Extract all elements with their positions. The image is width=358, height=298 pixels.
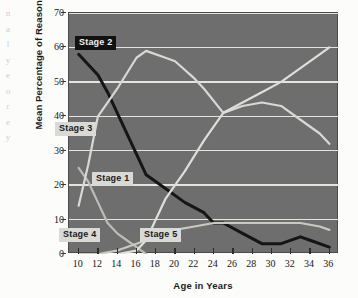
series-callout-stage-3: Stage 3 (55, 122, 96, 136)
figure-page: n a l y e o r e y Mean Percentage of Rea… (0, 0, 358, 298)
x-axis-ticks: 1012141618202224262830323436 (0, 0, 358, 298)
series-callout-stage-5: Stage 5 (140, 228, 181, 242)
series-callout-stage-1: Stage 1 (92, 172, 133, 186)
x-axis-title: Age in Years (68, 280, 338, 291)
series-callout-stage-4: Stage 4 (59, 228, 100, 242)
series-callout-stage-2: Stage 2 (75, 36, 116, 50)
x-tick-label: 36 (315, 258, 341, 269)
